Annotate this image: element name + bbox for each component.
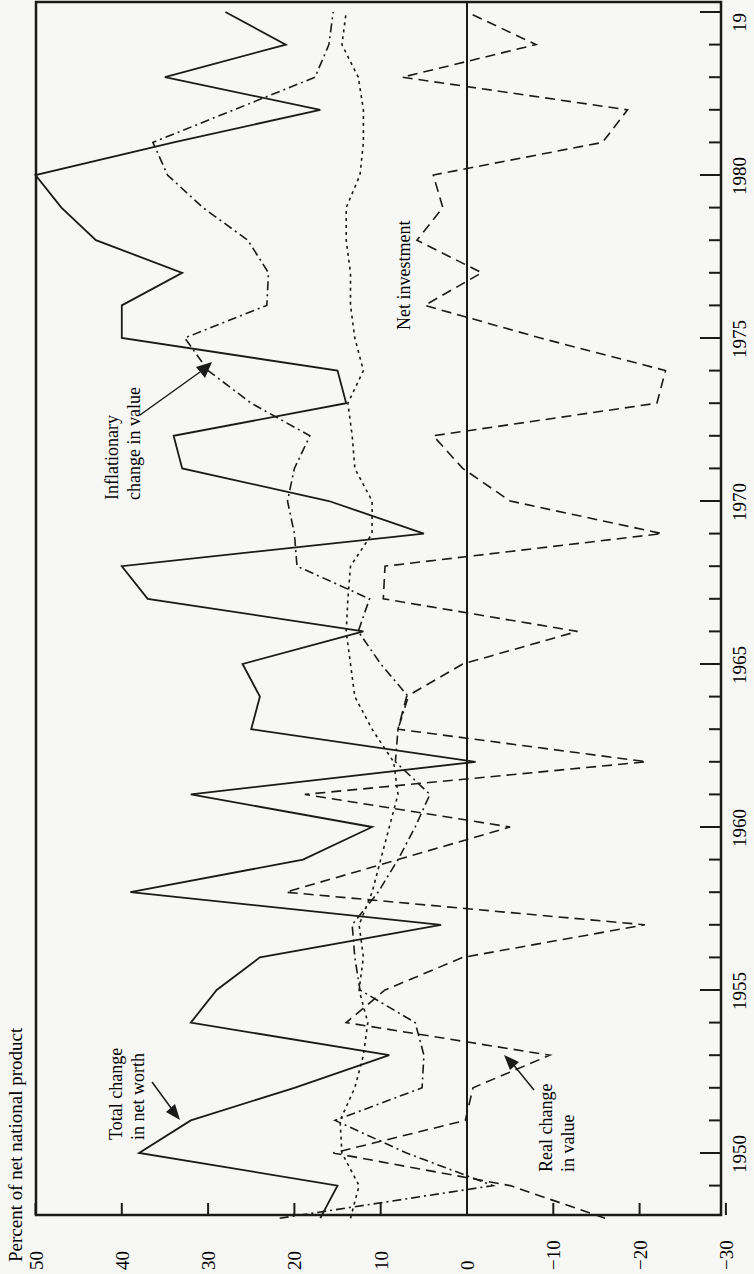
annotation-total-change: Total change in net worth: [106, 1048, 180, 1140]
svg-text:in net worth: in net worth: [128, 1053, 148, 1140]
arrow-icon: [140, 372, 200, 415]
series-net-investment: [340, 12, 398, 1218]
svg-text:Inflationary: Inflationary: [102, 415, 122, 500]
year-tick-label: 1975: [729, 320, 750, 358]
year-axis-ticks: 195019551960196519701975198019: [700, 12, 750, 1186]
year-tick-label: 19: [729, 13, 750, 32]
value-tick-label: −20: [630, 1240, 651, 1270]
year-tick-label: 1980: [729, 157, 750, 195]
svg-text:Real change: Real change: [536, 1084, 556, 1172]
value-tick-label: 50: [26, 1251, 47, 1270]
value-tick-label: 20: [284, 1251, 305, 1270]
arrowhead-icon: [166, 1104, 180, 1120]
year-tick-label: 1960: [729, 809, 750, 847]
svg-text:Net investment: Net investment: [394, 221, 414, 330]
series-real-change-in-value: [286, 12, 666, 1218]
value-tick-label: 30: [198, 1251, 219, 1270]
svg-text:in value: in value: [558, 1115, 578, 1172]
series-total-change-in-net-worth: [36, 12, 476, 1218]
annotation-net-investment: Net investment: [394, 221, 414, 330]
year-tick-label: 1965: [729, 646, 750, 684]
value-tick-label: 40: [112, 1251, 133, 1270]
svg-text:change in value: change in value: [124, 387, 144, 500]
value-tick-label: 10: [371, 1251, 392, 1270]
plot-frame: [36, 2, 721, 1215]
rotated-line-chart: 50403020100−10−20−30 1950195519601965197…: [0, 0, 754, 1274]
year-tick-label: 1970: [729, 483, 750, 521]
annotation-real-change: Real change in value: [504, 1055, 578, 1172]
value-axis-ticks: 50403020100−10−20−30: [26, 1203, 737, 1270]
year-tick-label: 1950: [729, 1135, 750, 1173]
value-tick-label: 0: [457, 1261, 478, 1271]
axis-label: Percent of net national product: [5, 1027, 26, 1262]
value-tick-label: −30: [716, 1240, 737, 1270]
year-tick-label: 1955: [729, 972, 750, 1010]
series-layer: [36, 12, 666, 1218]
svg-text:Total change: Total change: [106, 1048, 126, 1140]
arrowhead-icon: [196, 362, 212, 378]
arrow-icon: [152, 1082, 174, 1112]
value-tick-label: −10: [543, 1240, 564, 1270]
